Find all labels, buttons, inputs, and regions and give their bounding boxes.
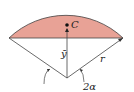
centroid-point — [65, 23, 69, 27]
ybar-label: ȳ — [60, 48, 67, 59]
radius-left — [9, 38, 67, 78]
circular-segment — [9, 15, 123, 38]
segment-diagram: C ȳ r 2α — [0, 0, 134, 92]
radius-right — [67, 38, 123, 78]
angle-arc-left — [44, 69, 50, 84]
angle-label: 2α — [82, 81, 96, 92]
centroid-label: C — [71, 19, 79, 30]
radius-label: r — [100, 53, 106, 64]
